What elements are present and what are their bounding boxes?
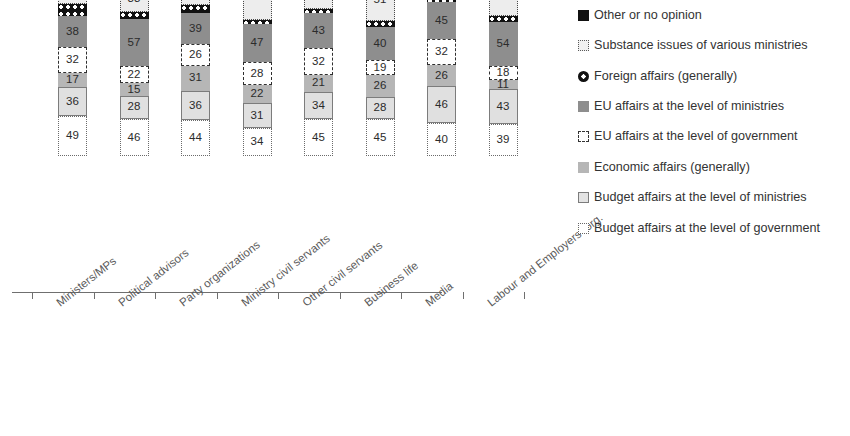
bar-segment-eumin[interactable]: 43 xyxy=(304,13,333,48)
bar-segment-budgmin[interactable]: 46 xyxy=(427,86,456,123)
bar-segment-eumin[interactable]: 54 xyxy=(489,22,518,66)
segment-value-label: 36 xyxy=(66,96,79,108)
segment-value-label: 45 xyxy=(435,15,448,27)
bar-segment-eumin[interactable]: 45 xyxy=(427,2,456,39)
bar-segment-substance[interactable]: 54 xyxy=(489,0,518,16)
x-axis-tick xyxy=(32,292,33,299)
bar-segment-econ[interactable]: 15 xyxy=(120,83,149,95)
legend-swatch-substance-icon xyxy=(578,40,589,51)
bar-segment-eugov[interactable]: 19 xyxy=(366,60,395,75)
segment-value-label: 40 xyxy=(435,134,448,146)
bar-segment-budgmin[interactable]: 31 xyxy=(243,103,272,128)
x-axis-tick xyxy=(524,292,525,299)
legend-swatch-eumin-icon xyxy=(578,101,589,112)
legend-swatch-budggov-icon xyxy=(578,223,589,234)
bar-segment-eumin[interactable]: 57 xyxy=(120,19,149,65)
legend-item-substance[interactable]: Substance issues of various ministries xyxy=(578,38,846,53)
bar-segment-budggov[interactable]: 49 xyxy=(58,116,87,156)
segment-value-label: 34 xyxy=(312,100,325,112)
legend-item-econ[interactable]: Economic affairs (generally) xyxy=(578,160,846,175)
segment-value-label: 19 xyxy=(374,62,387,74)
bar-stack: 545418114339 xyxy=(489,0,518,156)
bar-segment-budgmin[interactable]: 36 xyxy=(181,91,210,120)
x-axis-tick xyxy=(94,292,95,299)
bar-segment-budgmin[interactable]: 34 xyxy=(304,92,333,120)
segment-value-label: 22 xyxy=(128,69,141,81)
bar-segment-foreign[interactable] xyxy=(58,4,87,15)
legend-item-eumin[interactable]: EU affairs at the level of ministries xyxy=(578,99,846,114)
bar-segment-budgmin[interactable]: 36 xyxy=(58,87,87,116)
segment-value-label: 31 xyxy=(251,110,264,122)
segment-value-label: 32 xyxy=(435,46,448,58)
bar-segment-budggov[interactable]: 44 xyxy=(181,120,210,156)
segment-value-label: 36 xyxy=(189,100,202,112)
bar-segment-econ[interactable]: 21 xyxy=(304,75,333,92)
bar-segment-eugov[interactable]: 32 xyxy=(58,47,87,73)
segment-value-label: 51 xyxy=(374,0,387,6)
bar-segment-budggov[interactable]: 34 xyxy=(243,128,272,156)
segment-value-label: 46 xyxy=(435,99,448,111)
bar-segment-foreign[interactable] xyxy=(181,5,210,12)
segment-value-label: 44 xyxy=(189,132,202,144)
segment-value-label: 47 xyxy=(251,37,264,49)
bar-segment-econ[interactable]: 26 xyxy=(366,75,395,96)
bar-segment-eugov[interactable]: 28 xyxy=(243,62,272,85)
legend-item-budggov[interactable]: Budget affairs at the level of governmen… xyxy=(578,221,846,236)
chart-legend: Other or no opinionSubstance issues of v… xyxy=(578,8,846,235)
bar-segment-eugov[interactable]: 22 xyxy=(120,66,149,84)
segment-value-label: 28 xyxy=(251,68,264,80)
segment-value-label: 32 xyxy=(312,56,325,68)
bar-segment-substance[interactable]: 33 xyxy=(120,0,149,12)
legend-swatch-budgmin-icon xyxy=(578,192,589,203)
bar-segment-foreign[interactable] xyxy=(120,12,149,19)
bar-segment-substance[interactable]: 49 xyxy=(304,0,333,9)
bar-segment-substance[interactable]: 58 xyxy=(243,0,272,20)
legend-label: Economic affairs (generally) xyxy=(594,160,846,175)
legend-item-foreign[interactable]: Foreign affairs (generally) xyxy=(578,69,846,84)
segment-value-label: 11 xyxy=(497,79,509,91)
legend-item-eugov[interactable]: EU affairs at the level of government xyxy=(578,129,846,144)
stacked-bar-chart: 3238321736493357221528463639263136445847… xyxy=(0,0,850,436)
bar-segment-budggov[interactable]: 46 xyxy=(120,119,149,156)
bar-segment-budggov[interactable]: 40 xyxy=(427,123,456,156)
bar-segment-budggov[interactable]: 45 xyxy=(366,119,395,156)
legend-label: Budget affairs at the level of governmen… xyxy=(594,221,846,236)
segment-value-label: 46 xyxy=(128,132,141,144)
segment-value-label: 33 xyxy=(128,0,141,4)
segment-value-label: 28 xyxy=(374,102,387,114)
bar-segment-econ[interactable]: 31 xyxy=(181,66,210,91)
bar-segment-budgmin[interactable]: 28 xyxy=(366,97,395,120)
segment-value-label: 45 xyxy=(374,132,387,144)
bar-segment-eumin[interactable]: 47 xyxy=(243,24,272,62)
bar-segment-econ[interactable]: 26 xyxy=(427,65,456,86)
bar-segment-budgmin[interactable]: 43 xyxy=(489,89,518,124)
legend-item-other[interactable]: Other or no opinion xyxy=(578,8,846,23)
segment-value-label: 32 xyxy=(66,54,79,66)
segment-value-label: 49 xyxy=(66,130,79,142)
segment-value-label: 38 xyxy=(66,26,79,38)
segment-value-label: 39 xyxy=(189,23,202,35)
bar-segment-budggov[interactable]: 39 xyxy=(489,124,518,156)
bar-segment-eugov[interactable]: 26 xyxy=(181,44,210,65)
segment-value-label: 58 xyxy=(251,0,264,2)
bar-segment-budggov[interactable]: 45 xyxy=(304,119,333,156)
bar-stack: 363926313644 xyxy=(181,0,210,156)
bar-segment-eugov[interactable]: 32 xyxy=(427,39,456,65)
bar-segment-budgmin[interactable]: 28 xyxy=(120,96,149,119)
legend-swatch-econ-icon xyxy=(578,162,589,173)
bar-segment-econ[interactable]: 22 xyxy=(243,85,272,103)
segment-value-label: 43 xyxy=(312,25,325,37)
segment-value-label: 26 xyxy=(374,80,387,92)
bar-segment-substance[interactable]: 51 xyxy=(366,0,395,21)
bar-segment-econ[interactable]: 17 xyxy=(58,73,87,87)
bar-segment-eumin[interactable]: 40 xyxy=(366,27,395,60)
legend-swatch-eugov-icon xyxy=(578,131,589,142)
legend-item-budgmin[interactable]: Budget affairs at the level of ministrie… xyxy=(578,190,846,205)
bar-segment-eumin[interactable]: 38 xyxy=(58,16,87,47)
segment-value-label: 21 xyxy=(312,77,325,89)
x-axis-tick xyxy=(401,292,402,299)
legend-label: Other or no opinion xyxy=(594,8,846,23)
bar-segment-econ[interactable]: 11 xyxy=(489,80,518,89)
bar-segment-eumin[interactable]: 39 xyxy=(181,13,210,45)
bar-segment-eugov[interactable]: 32 xyxy=(304,48,333,74)
